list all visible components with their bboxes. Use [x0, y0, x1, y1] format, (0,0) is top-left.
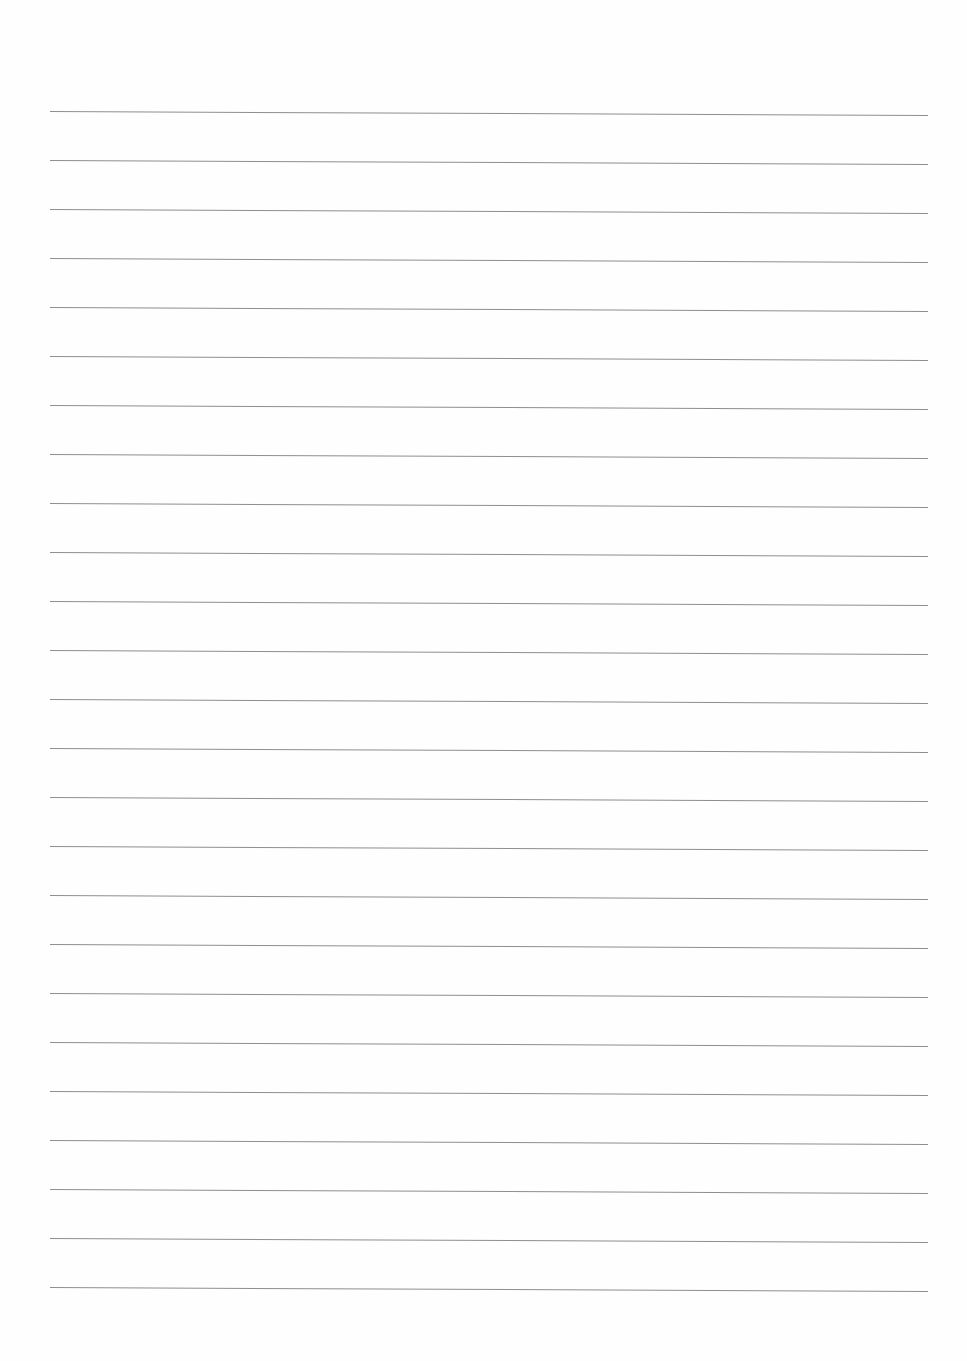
ruled-line: [50, 552, 928, 558]
ruled-line: [50, 454, 928, 460]
ruled-line: [50, 111, 928, 117]
ruled-line: [50, 1091, 928, 1097]
ruled-line: [50, 601, 928, 607]
ruled-line: [50, 748, 928, 754]
ruled-line: [50, 1238, 928, 1244]
ruled-line: [50, 209, 928, 215]
ruled-line: [50, 1287, 928, 1293]
ruled-line: [50, 699, 928, 705]
ruled-line: [50, 797, 928, 803]
ruled-line: [50, 650, 928, 656]
ruled-line: [50, 405, 928, 411]
ruled-line: [50, 1189, 928, 1195]
ruled-line: [50, 160, 928, 166]
ruled-line: [50, 993, 928, 999]
ruled-paper-page: [0, 0, 967, 1361]
ruled-line: [50, 356, 928, 362]
ruled-line: [50, 1042, 928, 1048]
ruled-line: [50, 258, 928, 264]
ruled-line: [50, 503, 928, 509]
ruled-line: [50, 1140, 928, 1146]
ruled-line: [50, 307, 928, 313]
ruled-line: [50, 846, 928, 852]
ruled-line: [50, 895, 928, 901]
ruled-line: [50, 944, 928, 950]
